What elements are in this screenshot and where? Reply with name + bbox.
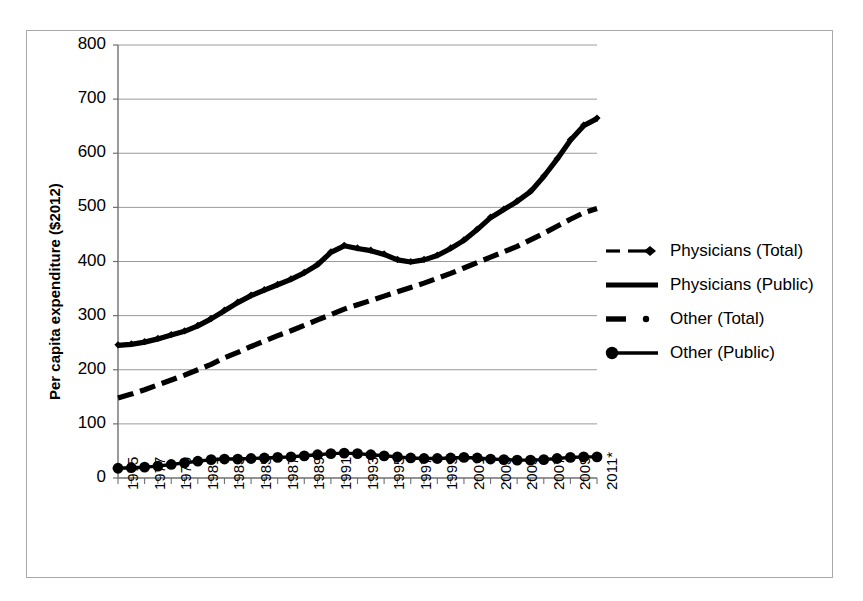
x-tick-label: 1985	[257, 457, 274, 490]
legend-item-label: Other (Public)	[670, 343, 775, 363]
data-series-layer	[113, 114, 603, 473]
x-tick-label: 1997	[417, 457, 434, 490]
solid-thick-key	[604, 276, 664, 294]
chart-legend: Physicians (Total)Physicians (Public)Oth…	[604, 234, 834, 370]
legend-item-label: Physicians (Public)	[670, 275, 814, 295]
x-tick-label: 2001	[470, 457, 487, 490]
y-tick-label: 500	[50, 196, 106, 216]
x-tick-label: 1991	[337, 457, 354, 490]
x-tick-label: 2011*	[603, 452, 620, 490]
gridlines	[118, 45, 597, 424]
y-tick-label: 200	[50, 359, 106, 379]
x-tick-label: 1993	[364, 457, 381, 490]
y-tick-label: 800	[50, 34, 106, 54]
y-tick-label: 300	[50, 305, 106, 325]
series-physicians-public	[118, 119, 597, 346]
legend-item: Physicians (Public)	[604, 268, 834, 302]
y-tick-label: 100	[50, 413, 106, 433]
legend-item: Other (Total)	[604, 302, 834, 336]
y-tick-label: 700	[50, 88, 106, 108]
legend-item-label: Physicians (Total)	[670, 241, 803, 261]
x-tick-label: 1995	[390, 457, 407, 490]
x-tick-label: 2005	[523, 457, 540, 490]
chart-figure: Per capita expenditure ($2012) 010020030…	[0, 0, 863, 601]
x-tick-label: 2009	[576, 457, 593, 490]
x-tick-label: 1999	[443, 457, 460, 490]
x-tick-label: 1983	[230, 457, 247, 490]
series-physicians-total	[114, 114, 600, 348]
x-tick-label: 1981	[204, 457, 221, 490]
x-tick-label: 2007	[550, 457, 567, 490]
dashed-diamond-key	[604, 242, 664, 260]
x-tick-label: 1979	[177, 457, 194, 490]
x-tick-label: 1989	[310, 457, 327, 490]
solid-circle-key	[604, 344, 664, 362]
y-tick-label: 0	[50, 467, 106, 487]
y-axis-ticks	[113, 45, 118, 478]
legend-item-label: Other (Total)	[670, 309, 764, 329]
legend-item: Other (Public)	[604, 336, 834, 370]
dashed-dot-key	[604, 310, 664, 328]
x-tick-label: 1975	[124, 457, 141, 490]
x-tick-label: 2003	[497, 457, 514, 490]
x-tick-label: 1987	[284, 457, 301, 490]
legend-item: Physicians (Total)	[604, 234, 834, 268]
y-tick-label: 600	[50, 142, 106, 162]
y-tick-label: 400	[50, 251, 106, 271]
x-tick-label: 1977	[151, 457, 168, 490]
